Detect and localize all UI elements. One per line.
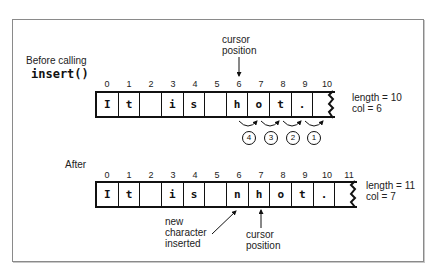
before-cell [205,93,227,116]
before-index: 2 [140,79,162,89]
after-cell: s [184,183,206,206]
before-cursor-label-line2: position [222,45,256,56]
after-index: 8 [272,170,294,180]
new-char-label-line3: inserted [165,238,201,249]
step-circle-4: 4 [242,131,256,145]
before-index: 9 [294,79,316,89]
after-cell: t [119,183,141,206]
before-cell: s [184,93,206,116]
after-index: 0 [96,170,118,180]
before-index: 5 [206,79,228,89]
after-cell [205,183,227,206]
before-cursor-label-line1: cursor [222,34,250,45]
step-circle-2: 2 [286,131,300,145]
after-length-stat: length = 11 [366,180,415,191]
before-cell: h [227,93,249,116]
before-cell: . [292,93,314,116]
before-index: 0 [96,79,118,89]
after-index: 10 [316,170,338,180]
after-index: 3 [162,170,184,180]
after-cell: h [249,183,271,206]
before-index: 8 [272,79,294,89]
after-buffer-array: I t i s n h o t . [95,181,357,208]
after-index: 4 [184,170,206,180]
before-index: 1 [118,79,140,89]
after-cell-empty [335,183,357,206]
before-index: 10 [316,79,338,89]
before-cell [140,93,162,116]
after-cell [140,183,162,206]
before-cell: i [162,93,184,116]
after-index: 2 [140,170,162,180]
step-circle-3: 3 [264,131,278,145]
before-cell [313,93,335,116]
before-function-name: insert() [31,67,89,81]
after-index: 11 [338,170,360,180]
after-cell: i [162,183,184,206]
after-cell: o [270,183,292,206]
after-cursor-label-line2: position [246,240,280,251]
before-cell: t [270,93,292,116]
before-index: 4 [184,79,206,89]
before-cell: o [248,93,270,116]
before-col-stat: col = 6 [352,103,382,114]
before-title: Before calling [26,55,87,66]
after-cursor-label-line1: cursor [246,229,274,240]
new-char-label-line1: new [165,216,183,227]
before-index: 7 [250,79,272,89]
after-index: 7 [250,170,272,180]
after-col-stat: col = 7 [366,191,396,202]
new-char-label-line2: character [165,227,207,238]
before-length-stat: length = 10 [352,92,402,103]
after-title: After [65,159,86,170]
before-index: 3 [162,79,184,89]
before-index: 6 [228,79,250,89]
after-cell: I [97,183,119,206]
after-index: 9 [294,170,316,180]
after-cell: n [227,183,249,206]
after-index: 6 [228,170,250,180]
after-index: 5 [206,170,228,180]
after-cell: . [314,183,336,206]
after-cell: t [292,183,314,206]
after-index: 1 [118,170,140,180]
before-buffer-array: I t i s h o t . [95,91,335,118]
step-circle-1: 1 [307,131,321,145]
before-cell: t [119,93,141,116]
before-cell: I [97,93,119,116]
